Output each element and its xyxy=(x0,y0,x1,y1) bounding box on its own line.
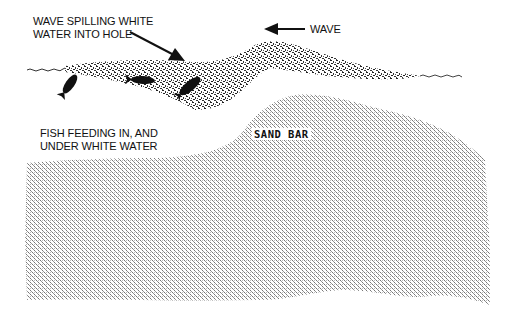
wave-direction-arrow xyxy=(264,23,305,35)
wave-label: WAVE xyxy=(310,23,341,36)
spilling-label-line1: WAVE SPILLING WHITE xyxy=(33,15,153,28)
white-water-region xyxy=(65,41,420,110)
diagram-canvas xyxy=(0,0,516,320)
spilling-label-line2: WATER INTO HOLE xyxy=(33,28,153,41)
fish-icon xyxy=(57,72,81,100)
fish-feeding-label-line1: FISH FEEDING IN, AND xyxy=(40,127,158,140)
white-water-leading-squiggle xyxy=(27,68,69,72)
spilling-label: WAVE SPILLING WHITE WATER INTO HOLE xyxy=(33,15,153,41)
fish-feeding-label-line2: UNDER WHITE WATER xyxy=(40,140,158,153)
sand-bar-label: SAND BAR xyxy=(252,128,311,140)
white-water-trailing-squiggle xyxy=(420,75,462,77)
fish-feeding-label: FISH FEEDING IN, AND UNDER WHITE WATER xyxy=(40,127,158,153)
